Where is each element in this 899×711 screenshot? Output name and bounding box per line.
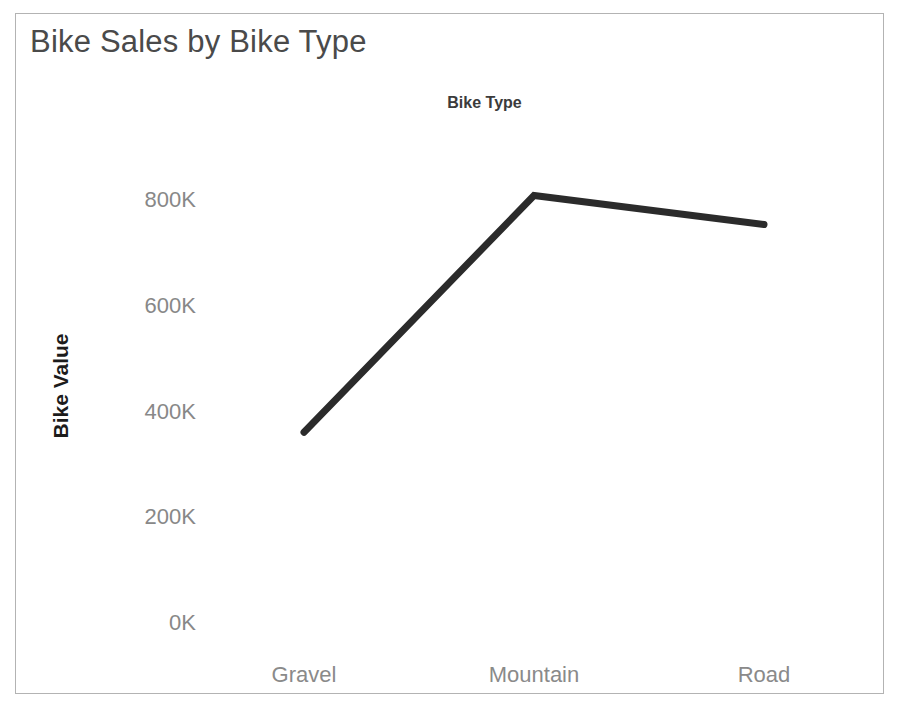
line-series-svg <box>16 14 885 695</box>
plot-area: 800K600K400K200K0K GravelMountainRoad <box>16 14 885 695</box>
line-series-path <box>304 196 764 433</box>
visualization-frame: Bike Sales by Bike Type Bike Type Bike V… <box>15 13 884 694</box>
